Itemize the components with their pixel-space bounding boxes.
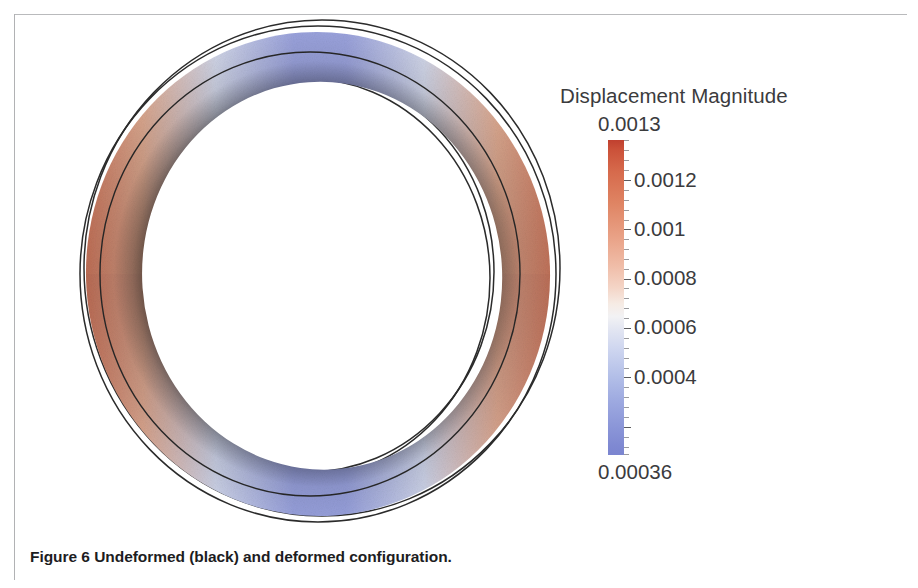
figure-page: Displacement Magnitude 0.0013 [0, 0, 918, 588]
colorbar-gradient [608, 140, 624, 455]
deformed-configuration-band [60, 16, 580, 528]
colorbar-tick-marks [624, 140, 631, 455]
colorbar-tick-label-0.0006: 0.0006 [634, 315, 697, 339]
ring-plot-svg [60, 16, 580, 528]
figure-frame-top-rule [14, 14, 907, 15]
fea-contour-plot [60, 16, 580, 528]
colorbar-title: Displacement Magnitude [560, 84, 788, 108]
colorbar-max-label: 0.0013 [598, 112, 661, 136]
colorbar-tick-label-0.0004: 0.0004 [634, 365, 697, 389]
colorbar-scale [608, 140, 624, 455]
colorbar-legend: Displacement Magnitude 0.0013 [546, 84, 886, 484]
colorbar-tick-label-0.001: 0.001 [634, 217, 685, 241]
colorbar-tick-label-0.0008: 0.0008 [634, 266, 697, 290]
figure-frame-left-rule [14, 14, 15, 580]
colorbar-tick-label-0.0012: 0.0012 [634, 168, 697, 192]
figure-caption: Figure 6 Undeformed (black) and deformed… [30, 548, 890, 566]
colorbar-min-label: 0.00036 [598, 460, 672, 484]
